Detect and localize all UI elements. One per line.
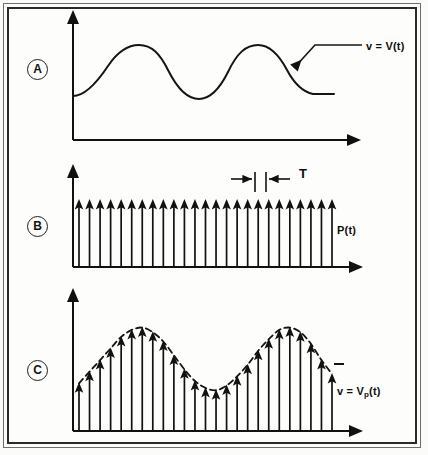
impulse-c-25 [328, 373, 337, 431]
impulse-c-8 [148, 331, 157, 431]
impulse-c-5 [117, 336, 126, 431]
impulse-c-9 [159, 341, 168, 431]
impulse-c-2 [85, 371, 94, 431]
panel-tag-b: B [27, 216, 48, 237]
panel-b-plot [73, 172, 351, 267]
panel-c-plot [73, 300, 351, 431]
panel-b-impulse-train [75, 199, 337, 267]
impulse-c-11 [180, 368, 189, 431]
impulse-b-23 [307, 199, 316, 267]
impulse-b-21 [286, 199, 295, 267]
impulse-c-14 [212, 389, 221, 431]
impulse-b-19 [264, 199, 273, 267]
panel-a-plot [73, 22, 362, 140]
impulse-c-22 [296, 331, 305, 431]
impulse-c-17 [243, 364, 252, 431]
impulse-b-17 [243, 199, 252, 267]
impulse-b-18 [254, 199, 263, 267]
panel-a-waveform [73, 45, 334, 99]
impulse-b-14 [212, 199, 221, 267]
figure-root: A B C v = V(t) T P(t) v = Vp(t) [0, 0, 428, 455]
impulse-c-7 [138, 327, 147, 431]
impulse-c-10 [170, 354, 179, 431]
impulse-c-4 [106, 347, 115, 431]
impulse-b-15 [222, 199, 231, 267]
impulse-c-20 [275, 329, 284, 431]
impulse-c-23 [307, 343, 316, 431]
panel-a-leader-line [294, 45, 362, 68]
impulse-b-11 [180, 199, 189, 267]
impulse-c-24 [317, 359, 326, 431]
panel-c-label-lhs: v = V [337, 385, 364, 397]
impulse-b-13 [201, 199, 210, 267]
impulse-b-8 [148, 199, 157, 267]
panel-tag-c: C [27, 360, 48, 381]
panel-b-signal-label: P(t) [337, 224, 356, 236]
impulse-c-6 [127, 329, 136, 431]
impulse-b-6 [127, 199, 136, 267]
panel-c-signal-label: v = Vp(t) [337, 385, 381, 397]
impulse-c-21 [286, 327, 295, 431]
panel-a-signal-label: v = V(t) [366, 40, 405, 52]
panel-c-impulse-train [75, 327, 337, 431]
impulse-b-10 [170, 199, 179, 267]
impulse-b-3 [96, 199, 105, 267]
impulse-b-1 [75, 199, 84, 267]
impulse-c-18 [254, 350, 263, 431]
impulse-b-16 [233, 199, 242, 267]
panel-c-label-subscript: p [364, 390, 369, 399]
impulse-c-15 [222, 385, 231, 431]
impulse-b-25 [328, 199, 337, 267]
impulse-c-3 [96, 359, 105, 431]
impulse-c-13 [201, 387, 210, 431]
impulse-c-1 [75, 382, 84, 431]
impulse-b-7 [138, 199, 147, 267]
impulse-b-20 [275, 199, 284, 267]
impulse-c-16 [233, 375, 242, 431]
panel-tag-a: A [27, 59, 48, 80]
impulse-b-9 [159, 199, 168, 267]
impulse-b-5 [117, 199, 126, 267]
impulse-b-12 [191, 199, 200, 267]
panel-c-label-rhs: (t) [369, 385, 381, 397]
impulse-b-4 [106, 199, 115, 267]
impulse-b-2 [85, 199, 94, 267]
period-label: T [299, 166, 307, 181]
impulse-c-12 [191, 380, 200, 431]
impulse-b-22 [296, 199, 305, 267]
impulse-c-19 [264, 338, 273, 431]
impulse-b-24 [317, 199, 326, 267]
